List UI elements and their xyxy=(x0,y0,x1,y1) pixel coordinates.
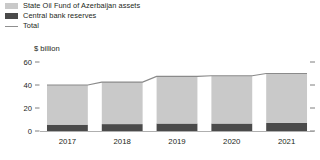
bar-segment xyxy=(266,123,307,131)
x-axis-tick-label: 2018 xyxy=(114,137,131,146)
bar-series-group xyxy=(47,74,307,132)
y-axis-tick-marks xyxy=(35,62,40,131)
bar-segment xyxy=(102,124,143,131)
x-axis-tick-label: 2021 xyxy=(278,137,295,146)
y-axis-tick-label: 60 xyxy=(24,58,32,67)
bar-segment xyxy=(266,74,307,123)
bar-segment xyxy=(211,76,252,124)
y-axis-tick-label: 40 xyxy=(24,81,32,90)
bar-segment xyxy=(211,124,252,131)
x-axis-tick-label: 2020 xyxy=(223,137,241,146)
bar-segment xyxy=(47,125,88,131)
chart-plot-area: 0204060 20172018201920202021 xyxy=(0,0,320,160)
x-axis-tick-label: 2017 xyxy=(59,137,76,146)
x-axis-tick-label: 2019 xyxy=(168,137,185,146)
bar-segment xyxy=(157,124,198,131)
bar-segment xyxy=(102,82,143,124)
y-axis-tick-label: 20 xyxy=(24,104,32,113)
bar-segment xyxy=(47,85,88,125)
y-axis-right-tick-marks xyxy=(310,62,315,131)
x-axis-tick-labels: 20172018201920202021 xyxy=(59,137,296,146)
y-axis-tick-label: 0 xyxy=(28,127,32,136)
y-axis-tick-labels: 0204060 xyxy=(24,58,32,136)
bar-segment xyxy=(157,76,198,123)
chart-page: State Oil Fund of Azerbaijan assets Cent… xyxy=(0,0,320,160)
